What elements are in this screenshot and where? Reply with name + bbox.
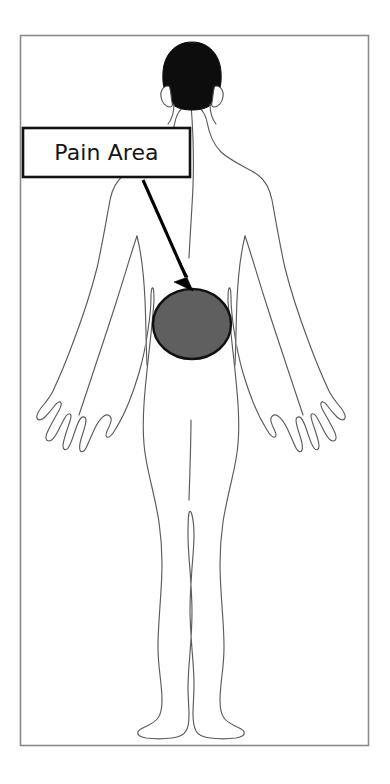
body-diagram bbox=[0, 0, 390, 784]
pain-area-marker[interactable] bbox=[153, 289, 231, 359]
pain-area-label-text: Pain Area bbox=[23, 128, 190, 177]
pain-diagram-page: Pain Area bbox=[0, 0, 390, 784]
